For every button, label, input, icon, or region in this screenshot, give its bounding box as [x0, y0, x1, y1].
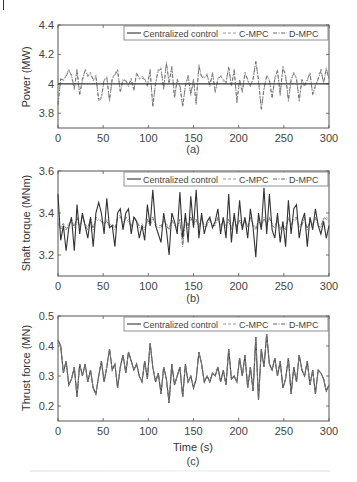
y-tick-label: 4	[48, 78, 54, 90]
legend-entry: Centralized control	[143, 175, 218, 185]
legend-b: Centralized controlC-MPCD-MPC	[124, 172, 328, 186]
caption-a: (a)	[186, 143, 199, 155]
x-tick-label: 200	[229, 280, 247, 292]
legend-entry: Centralized control	[143, 29, 218, 39]
x-tick-label: 250	[275, 425, 293, 437]
y-tick-label: 0.5	[39, 310, 54, 322]
caption-c: (c)	[187, 455, 200, 467]
x-tick-label: 150	[184, 280, 202, 292]
x-tick-label: 0	[55, 132, 61, 144]
x-tick-label: 0	[55, 280, 61, 292]
x-tick-label: 300	[320, 280, 338, 292]
y-axis-label-c: Thrust force (MN)	[20, 325, 32, 411]
chart-panel-b: 3.23.43.6 050100150200250300 Shaft torqu…	[20, 165, 338, 304]
legend-c: Centralized controlC-MPCD-MPC	[124, 317, 328, 331]
plot-area-c	[58, 316, 329, 421]
x-tick-label: 50	[97, 280, 109, 292]
x-tick-label: 100	[139, 425, 157, 437]
x-tick-label: 200	[229, 425, 247, 437]
y-tick-label: 0.4	[39, 340, 54, 352]
chart-panel-a: 3.844.24.4 050100150200250300 Power (MW)…	[20, 19, 338, 155]
x-tick-label: 300	[320, 425, 338, 437]
y-tick-label: 3.6	[39, 165, 54, 177]
x-tick-label: 0	[55, 425, 61, 437]
legend-entry: D-MPC	[289, 29, 319, 39]
x-tick-label: 50	[97, 425, 109, 437]
y-tick-label: 4.4	[39, 19, 54, 31]
y-tick-label: 3.4	[39, 207, 54, 219]
legend-a: Centralized controlC-MPCD-MPC	[124, 26, 328, 40]
y-tick-label: 3.2	[39, 249, 54, 261]
y-tick-label: 4.2	[39, 48, 54, 60]
legend-entry: Centralized control	[143, 320, 218, 330]
x-tick-label: 100	[139, 132, 157, 144]
legend-entry: C-MPC	[239, 175, 269, 185]
y-axis-label-b: Shaft torque (MNm)	[20, 175, 32, 272]
x-tick-label: 250	[275, 280, 293, 292]
cropped-caption-remnant	[30, 470, 330, 472]
x-axis-label-c: Time (s)	[173, 441, 213, 453]
x-tick-label: 250	[275, 132, 293, 144]
figure: 3.844.24.4 050100150200250300 Power (MW)…	[0, 0, 357, 482]
x-tick-label: 200	[229, 132, 247, 144]
x-tick-label: 50	[97, 132, 109, 144]
y-tick-label: 0.3	[39, 370, 54, 382]
legend-entry: D-MPC	[289, 175, 319, 185]
legend-entry: D-MPC	[289, 320, 319, 330]
caption-b: (b)	[186, 292, 199, 304]
y-axis-label-a: Power (MW)	[20, 46, 32, 107]
plot-area-a	[58, 25, 329, 128]
y-tick-label: 3.8	[39, 107, 54, 119]
chart-panel-c: 0.20.30.40.5 050100150200250300 Thrust f…	[20, 310, 338, 467]
x-tick-label: 100	[139, 280, 157, 292]
x-tick-label: 150	[184, 425, 202, 437]
legend-entry: C-MPC	[239, 320, 269, 330]
legend-entry: C-MPC	[239, 29, 269, 39]
x-tick-label: 300	[320, 132, 338, 144]
y-tick-label: 0.2	[39, 400, 54, 412]
